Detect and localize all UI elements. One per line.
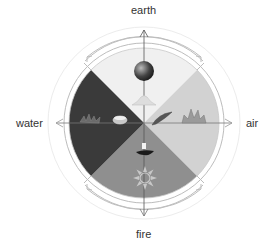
label-fire: fire xyxy=(136,229,151,240)
bowl-rim xyxy=(114,116,126,120)
label-water: water xyxy=(16,118,43,129)
label-air: air xyxy=(246,118,258,129)
candle-icon xyxy=(142,143,146,149)
sphere-icon xyxy=(134,61,154,81)
label-earth: earth xyxy=(131,5,156,16)
